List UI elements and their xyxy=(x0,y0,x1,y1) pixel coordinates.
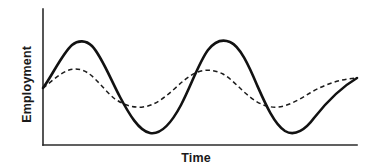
series-low-amplitude-dashed-curve xyxy=(43,69,357,107)
y-axis-label: Employment xyxy=(20,45,34,123)
series-high-amplitude-solid-curve xyxy=(43,41,357,134)
x-axis-label: Time xyxy=(181,151,211,165)
employment-time-chart: Employment Time xyxy=(0,0,381,167)
chart-plot-area: Employment Time xyxy=(0,0,381,167)
